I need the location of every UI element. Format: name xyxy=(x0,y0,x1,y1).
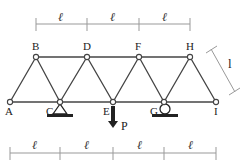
truss-members xyxy=(10,57,216,102)
node-H xyxy=(187,54,192,59)
node-B xyxy=(33,54,38,59)
top-dim-label-1: ℓ xyxy=(58,10,63,24)
side-dimension xyxy=(206,46,240,95)
node-C xyxy=(57,99,62,104)
label-F: F xyxy=(135,40,141,52)
label-G: G xyxy=(150,105,158,117)
label-A: A xyxy=(5,105,13,117)
load-label: P xyxy=(121,119,128,133)
bottom-dimension xyxy=(10,147,216,160)
node-F xyxy=(136,54,141,59)
bottom-dim-label-2: ℓ xyxy=(84,138,89,152)
node-D xyxy=(84,54,89,59)
label-D: D xyxy=(83,40,91,52)
node-I xyxy=(213,99,218,104)
label-B: B xyxy=(32,40,39,52)
bottom-dim-label-4: ℓ xyxy=(188,138,193,152)
bottom-dim-label-1: ℓ xyxy=(32,138,37,152)
side-dim-label: l xyxy=(228,56,232,71)
node-G xyxy=(161,99,166,104)
top-dim-label-2: ℓ xyxy=(110,10,115,24)
label-C: C xyxy=(46,105,53,117)
label-I: I xyxy=(214,105,218,117)
node-A xyxy=(7,99,12,104)
node-E xyxy=(110,99,115,104)
label-H: H xyxy=(186,40,194,52)
top-dim-label-3: ℓ xyxy=(162,10,167,24)
bottom-dim-label-3: ℓ xyxy=(137,138,142,152)
truss-diagram: ℓ ℓ ℓ l P B D F H xyxy=(0,0,243,165)
label-E: E xyxy=(103,105,110,117)
